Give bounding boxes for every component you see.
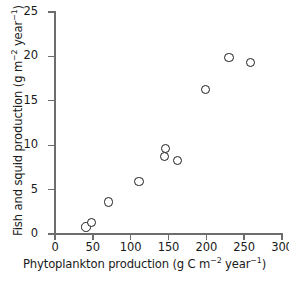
y-axis-title-mid: year <box>11 21 25 50</box>
x-axis-title-post: ) <box>262 257 266 271</box>
y-axis-title: Fish and squid production (g m−2 year−1) <box>12 5 25 237</box>
x-axis-tick-label: 0 <box>35 242 75 254</box>
plot-area <box>55 12 282 234</box>
data-point <box>134 177 143 186</box>
x-axis-title-sup-2: −1 <box>250 256 261 265</box>
x-axis-title-pre: Phytoplankton production (g C m <box>23 257 210 271</box>
y-axis-title-sup-2: −1 <box>10 10 19 21</box>
x-axis-tick-label: 300 <box>262 242 289 254</box>
y-axis-tick <box>48 56 54 57</box>
scatter-plot-figure: 0510152025 050100150200250300 Phytoplank… <box>0 0 289 281</box>
x-axis-tick-label: 150 <box>149 242 189 254</box>
data-point <box>104 197 113 206</box>
x-axis-title-sup-1: −2 <box>210 256 221 265</box>
y-axis-tick <box>48 189 54 190</box>
x-axis-tick-label: 250 <box>224 242 264 254</box>
data-point <box>224 53 233 62</box>
x-axis-title: Phytoplankton production (g C m−2 year−1… <box>0 258 289 271</box>
data-point <box>87 218 96 227</box>
x-axis-tick-label: 50 <box>73 242 113 254</box>
x-axis-tick-label: 100 <box>111 242 151 254</box>
y-axis-tick <box>48 233 54 234</box>
y-axis-title-post: ) <box>11 5 25 9</box>
y-axis-title-pre: Fish and squid production (g m <box>11 61 25 236</box>
x-axis-title-mid: year <box>222 257 251 271</box>
y-axis-tick <box>48 100 54 101</box>
y-axis-tick <box>48 145 54 146</box>
y-axis-title-sup-1: −2 <box>10 50 19 61</box>
x-axis-tick-label: 200 <box>186 242 226 254</box>
y-axis-tick <box>48 11 54 12</box>
